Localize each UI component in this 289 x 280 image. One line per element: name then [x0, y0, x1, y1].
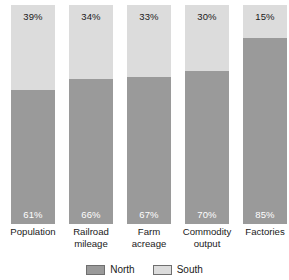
bar-stack: 15% 85% — [243, 5, 287, 224]
bar-segment-south[interactable]: 39% — [11, 5, 55, 90]
category-label-line1: Factories — [228, 226, 289, 238]
category-label-factories: Factories — [228, 226, 289, 238]
bar-stack: 33% 67% — [127, 5, 171, 224]
plot-area: 39% 61% 34% 66% 33% — [0, 0, 289, 226]
bar-group-railroad-mileage[interactable]: 34% 66% — [69, 5, 113, 224]
bar-segment-north[interactable]: 70% — [185, 71, 229, 224]
legend-label-south: South — [177, 264, 203, 276]
bar-group-farm-acreage[interactable]: 33% 67% — [127, 5, 171, 224]
bar-stack: 39% 61% — [11, 5, 55, 224]
category-label-line2: output — [170, 238, 244, 250]
bar-segment-south[interactable]: 34% — [69, 5, 113, 79]
bar-label-south: 33% — [127, 11, 171, 22]
legend-label-north: North — [110, 264, 134, 276]
chart-legend: North South — [0, 262, 289, 278]
bar-group-population[interactable]: 39% 61% — [11, 5, 55, 224]
bar-group-commodity-output[interactable]: 30% 70% — [185, 5, 229, 224]
bar-segment-south[interactable]: 15% — [243, 5, 287, 38]
bar-label-south: 15% — [243, 11, 287, 22]
category-axis-labels: Population Railroad mileage Farm acreage… — [0, 226, 289, 256]
bar-segment-north[interactable]: 85% — [243, 38, 287, 224]
bar-label-south: 34% — [69, 11, 113, 22]
bar-label-north: 66% — [69, 209, 113, 220]
legend-item-north[interactable]: North — [86, 264, 134, 276]
bar-stack: 30% 70% — [185, 5, 229, 224]
bar-label-south: 39% — [11, 11, 55, 22]
bar-label-north: 67% — [127, 209, 171, 220]
legend-swatch-south-icon — [153, 265, 172, 275]
bar-stack: 34% 66% — [69, 5, 113, 224]
bar-segment-north[interactable]: 66% — [69, 79, 113, 224]
bar-segment-south[interactable]: 30% — [185, 5, 229, 71]
bar-label-south: 30% — [185, 11, 229, 22]
bar-label-north: 61% — [11, 209, 55, 220]
bar-segment-north[interactable]: 67% — [127, 77, 171, 224]
bar-segment-south[interactable]: 33% — [127, 5, 171, 77]
bar-label-north: 85% — [243, 209, 287, 220]
bar-segment-north[interactable]: 61% — [11, 90, 55, 224]
stacked-bar-chart: 39% 61% 34% 66% 33% — [0, 0, 289, 280]
legend-swatch-north-icon — [86, 265, 105, 275]
bar-group-factories[interactable]: 15% 85% — [243, 5, 287, 224]
bar-label-north: 70% — [185, 209, 229, 220]
legend-item-south[interactable]: South — [153, 264, 203, 276]
